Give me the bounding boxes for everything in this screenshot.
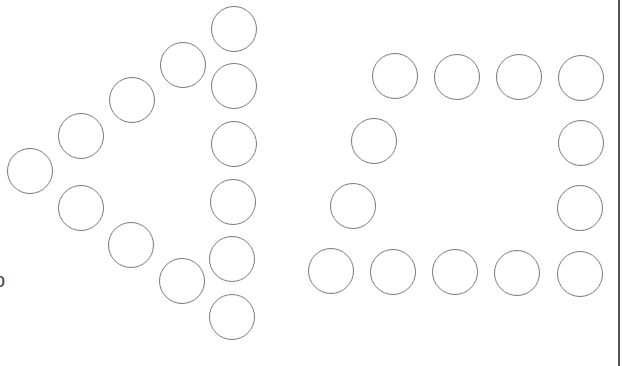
- bracket-circle-icon: [494, 250, 540, 296]
- arrow-circle-icon: [209, 294, 255, 340]
- bracket-circle-icon: [370, 249, 416, 295]
- arrow-circle-icon: [209, 236, 255, 282]
- arrow-circle-icon: [210, 179, 256, 225]
- bracket-circle-icon: [557, 185, 603, 231]
- bracket-circle-icon: [557, 251, 603, 297]
- bracket-circle-icon: [432, 249, 478, 295]
- arrow-circle-icon: [7, 148, 53, 194]
- arrow-circle-icon: [211, 6, 257, 52]
- bracket-circle-icon: [351, 118, 397, 164]
- arrow-circle-icon: [159, 258, 205, 304]
- arrow-circle-icon: [108, 222, 154, 268]
- bracket-circle-icon: [372, 53, 418, 99]
- right-border-line: [618, 0, 620, 366]
- bracket-circle-icon: [330, 183, 376, 229]
- arrow-circle-icon: [58, 113, 104, 159]
- arrow-circle-icon: [160, 42, 206, 88]
- arrow-circle-icon: [211, 121, 257, 167]
- bracket-circle-icon: [496, 54, 542, 100]
- arrow-circle-icon: [211, 63, 257, 109]
- bracket-circle-icon: [558, 120, 604, 166]
- arrow-circle-icon: [109, 77, 155, 123]
- bracket-circle-icon: [434, 54, 480, 100]
- circle-figure: o: [0, 0, 622, 366]
- bracket-circle-icon: [308, 248, 354, 294]
- arrow-circle-icon: [58, 185, 104, 231]
- bracket-circle-icon: [558, 55, 604, 101]
- edge-glyph-fragment: o: [0, 270, 5, 290]
